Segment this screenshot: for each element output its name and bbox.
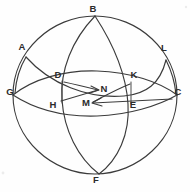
point-label-n: N: [101, 83, 108, 94]
point-label-l: L: [161, 42, 167, 53]
scan-speck: [2, 172, 5, 175]
point-label-k: K: [131, 69, 138, 80]
point-label-m: M: [82, 97, 90, 108]
diagram-background: [0, 0, 190, 192]
point-label-b: B: [90, 3, 97, 14]
point-label-f: F: [93, 174, 99, 185]
point-label-a: A: [19, 41, 26, 52]
sphere-diagram-svg: BALDKNGCHMEF: [0, 0, 190, 192]
point-label-c: C: [175, 86, 182, 97]
point-label-d: D: [55, 69, 62, 80]
scan-speck-2: [185, 6, 187, 8]
point-label-h: H: [50, 99, 57, 110]
sphere-diagram-canvas: BALDKNGCHMEF: [0, 0, 190, 192]
point-label-e: E: [130, 99, 136, 110]
point-label-g: G: [6, 86, 13, 97]
